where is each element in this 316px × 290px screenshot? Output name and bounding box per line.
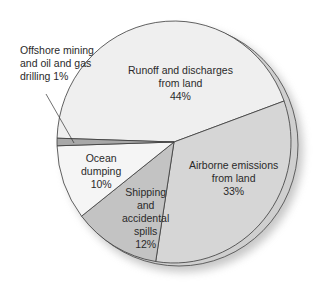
label-offshore-value: drilling 1% xyxy=(20,70,94,83)
label-runoff-line2: from land xyxy=(128,77,233,90)
label-offshore-line1: Offshore mining xyxy=(20,44,94,57)
label-ocean-line1: Ocean xyxy=(81,152,121,165)
label-shipping-value: 12% xyxy=(122,238,169,251)
label-runoff-value: 44% xyxy=(128,90,233,103)
label-runoff: Runoff and discharges from land 44% xyxy=(128,64,233,103)
label-runoff-line1: Runoff and discharges xyxy=(128,64,233,77)
label-airborne-value: 33% xyxy=(189,185,278,198)
label-shipping-line4: spills xyxy=(122,225,169,238)
label-ocean-value: 10% xyxy=(81,178,121,191)
label-shipping: Shipping and accidental spills 12% xyxy=(122,186,169,251)
label-ocean-line2: dumping xyxy=(81,165,121,178)
label-offshore: Offshore mining and oil and gas drilling… xyxy=(20,44,94,83)
label-airborne: Airborne emissions from land 33% xyxy=(189,159,278,198)
label-ocean: Ocean dumping 10% xyxy=(81,152,121,191)
label-shipping-line1: Shipping xyxy=(122,186,169,199)
label-shipping-line3: accidental xyxy=(122,212,169,225)
label-offshore-line2: and oil and gas xyxy=(20,57,94,70)
label-airborne-line1: Airborne emissions xyxy=(189,159,278,172)
label-shipping-line2: and xyxy=(122,199,169,212)
label-airborne-line2: from land xyxy=(189,172,278,185)
